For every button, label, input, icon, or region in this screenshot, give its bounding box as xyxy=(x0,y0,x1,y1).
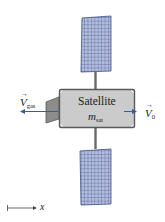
satellite-title: Satellite xyxy=(78,96,116,108)
satellite-velocity-label: V0 xyxy=(145,108,155,121)
top-solar-panel xyxy=(81,16,111,72)
gas-velocity-label: Vgas xyxy=(20,97,35,110)
x-axis-label: x xyxy=(40,202,44,212)
bottom-mast xyxy=(94,127,96,149)
x-axis-indicator xyxy=(8,205,37,211)
thruster-nozzle xyxy=(46,97,59,123)
bottom-solar-panel xyxy=(80,149,111,205)
top-mast xyxy=(94,71,96,90)
satellite-mass-label: msat xyxy=(88,111,103,124)
satellite-diagram xyxy=(0,0,165,222)
